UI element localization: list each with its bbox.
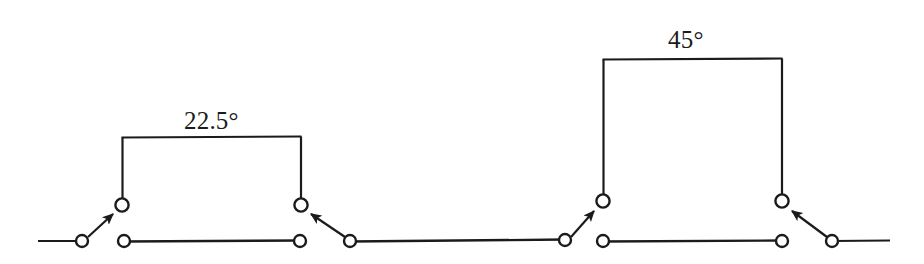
contact-terminal-raised [115,198,128,211]
contact-terminal [559,234,571,246]
step-45-outline [603,59,783,195]
contact-terminal [776,235,788,247]
rail-mid [350,240,565,242]
stepped-switch-diagram [0,0,924,264]
contact-terminal-raised [596,194,609,207]
contact-terminal [597,235,609,247]
step-22-5-outline [122,137,302,199]
rail-lead-out-right [832,241,890,242]
contact-terminal-raised [294,198,307,211]
arrow-close-4 [792,211,827,237]
angle-label-22-5: 22.5° [184,108,239,133]
contact-terminal [826,235,838,247]
arrow-close-1 [88,214,113,237]
rail-lower-1 [124,241,300,242]
contact-terminal [76,235,88,247]
arrow-close-3 [571,211,594,237]
contact-terminal-raised [775,194,788,207]
step-22-5-top-bar [122,137,302,138]
arrow-close-2 [311,214,345,237]
rail-lower-2 [603,241,782,242]
contact-terminal [344,235,356,247]
angle-label-45: 45° [668,27,704,52]
step-45-top-bar [603,59,783,60]
contact-terminal [294,235,306,247]
figure-canvas: 22.5° 45° [0,0,924,264]
contact-terminal [118,235,130,247]
